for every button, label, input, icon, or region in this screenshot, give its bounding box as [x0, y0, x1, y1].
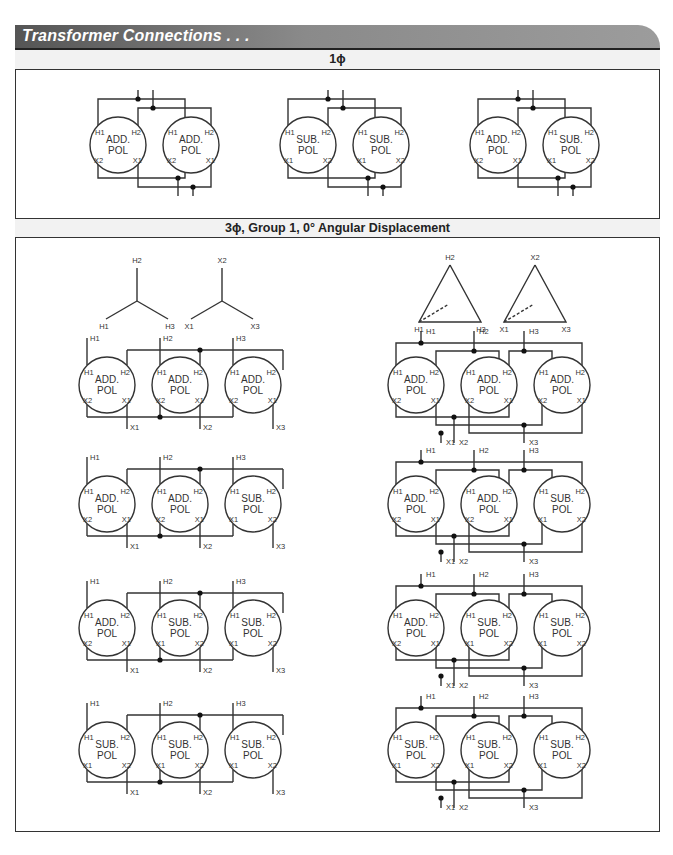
terminal-label: H1	[90, 699, 100, 708]
terminal-label: H2	[445, 253, 455, 262]
terminal-label: SUB.	[168, 617, 191, 628]
terminal-label: X2	[459, 681, 468, 690]
junction-dot	[175, 175, 180, 180]
terminal-label: ADD.	[550, 374, 574, 385]
terminal-label: H2	[163, 453, 173, 462]
terminal-label: H1	[84, 368, 94, 377]
terminal-label: X1	[184, 322, 193, 331]
junction-dot	[438, 673, 443, 678]
terminal-label: H2	[394, 128, 404, 137]
terminal-label: X1	[577, 396, 586, 405]
junction-dot	[157, 414, 162, 419]
terminal-label: SUB.	[241, 617, 264, 628]
junction-dot	[521, 467, 526, 472]
terminal-label: H1	[230, 487, 240, 496]
terminal-label: X1	[130, 542, 139, 551]
transformer-unit: SUB.POLH1H2X1X2	[225, 600, 281, 656]
terminal-label: H1	[84, 611, 94, 620]
junction-dot	[521, 348, 526, 353]
terminal-label: X2	[217, 256, 226, 265]
single-phase-diagram-2: SUB.POLH1H2X1X2SUB.POLH1H2X1X2	[280, 90, 409, 196]
terminal-label: H2	[429, 368, 439, 377]
terminal-label: H2	[193, 368, 203, 377]
terminal-label: H1	[90, 334, 100, 343]
terminal-label: H1	[393, 611, 403, 620]
terminal-label: H1	[230, 368, 240, 377]
terminal-label: H2	[163, 577, 173, 586]
terminal-label: X2	[83, 639, 92, 648]
terminal-label: H1	[466, 368, 476, 377]
junction-dot	[135, 96, 140, 101]
junction-dot	[530, 105, 535, 110]
terminal-label: X3	[529, 803, 538, 812]
terminal-label: X1	[284, 156, 293, 165]
terminal-label: H2	[120, 368, 130, 377]
terminal-label: POL	[108, 145, 128, 156]
terminal-label: X1	[130, 788, 139, 797]
junction-dot	[418, 583, 423, 588]
terminal-label: H2	[479, 570, 489, 579]
terminal-label: POL	[552, 385, 572, 396]
terminal-label: X2	[268, 761, 277, 770]
terminal-label: SUB.	[559, 134, 582, 145]
delta-secondary-symbol: X2X1X3	[499, 253, 570, 334]
terminal-label: X2	[459, 803, 468, 812]
transformer-unit: SUB.POLH1H2X1X2	[152, 600, 208, 656]
terminal-label: X2	[94, 156, 103, 165]
terminal-label: ADD.	[241, 374, 265, 385]
junction-dot	[451, 414, 456, 419]
terminal-label: POL	[181, 145, 201, 156]
transformer-unit: ADD.POLH1H2X2X1	[90, 117, 146, 173]
terminal-label: X2	[156, 515, 165, 524]
terminal-label: X2	[459, 438, 468, 447]
transformer-unit: ADD.POLH1H2X2X1	[225, 357, 281, 413]
transformer-unit: ADD.POLH1H2X2X1	[470, 117, 526, 173]
junction-dot	[521, 422, 526, 427]
terminal-label: X2	[122, 761, 131, 770]
junction-dot	[197, 466, 202, 471]
terminal-label: X1	[83, 761, 92, 770]
terminal-label: H2	[120, 611, 130, 620]
terminal-label: POL	[406, 750, 426, 761]
terminal-label: H1	[157, 733, 167, 742]
terminal-label: X2	[229, 396, 238, 405]
junction-dot	[451, 533, 456, 538]
terminal-label: H2	[429, 611, 439, 620]
terminal-label: X1	[229, 515, 238, 524]
wye-connection-row-2: H1H2H3X1X2X3ADD.POLH1H2X2X1ADD.POLH1H2X2…	[79, 453, 285, 551]
terminal-label: H1	[95, 128, 105, 137]
terminal-label: X2	[203, 666, 212, 675]
terminal-label: POL	[479, 750, 499, 761]
delta-primary-symbol: H2H1H3	[414, 253, 486, 334]
single-phase-diagram-1: ADD.POLH1H2X2X1ADD.POLH1H2X2X1	[90, 90, 219, 196]
terminal-label: H1	[84, 733, 94, 742]
transformer-unit: ADD.POLH1H2X2X1	[152, 476, 208, 532]
terminal-label: H1	[426, 570, 436, 579]
transformer-unit: SUB.POLH1H2X1X2	[534, 722, 590, 778]
terminal-label: H3	[165, 322, 175, 331]
transformer-diagrams: ADD.POLH1H2X2X1ADD.POLH1H2X2X1SUB.POLH1H…	[0, 0, 673, 855]
transformer-unit: SUB.POLH1H2X1X2	[225, 476, 281, 532]
terminal-label: ADD.	[106, 134, 130, 145]
junction-dot	[418, 459, 423, 464]
terminal-label: X2	[268, 639, 277, 648]
terminal-label: POL	[243, 385, 263, 396]
terminal-label: X2	[577, 639, 586, 648]
terminal-label: POL	[561, 145, 581, 156]
terminal-label: X3	[276, 788, 285, 797]
terminal-label: X2	[474, 156, 483, 165]
junction-dot	[451, 657, 456, 662]
terminal-label: SUB.	[241, 493, 264, 504]
terminal-label: X1	[122, 396, 131, 405]
transformer-unit: SUB.POLH1H2X1X2	[534, 476, 590, 532]
terminal-label: POL	[406, 385, 426, 396]
terminal-label: H2	[575, 611, 585, 620]
terminal-label: X2	[83, 396, 92, 405]
terminal-label: H2	[502, 611, 512, 620]
terminal-label: H1	[157, 368, 167, 377]
transformer-unit: ADD.POLH1H2X2X1	[388, 476, 444, 532]
terminal-label: X2	[586, 156, 595, 165]
terminal-label: SUB.	[404, 739, 427, 750]
terminal-label: H1	[466, 611, 476, 620]
junction-dot	[570, 184, 575, 189]
